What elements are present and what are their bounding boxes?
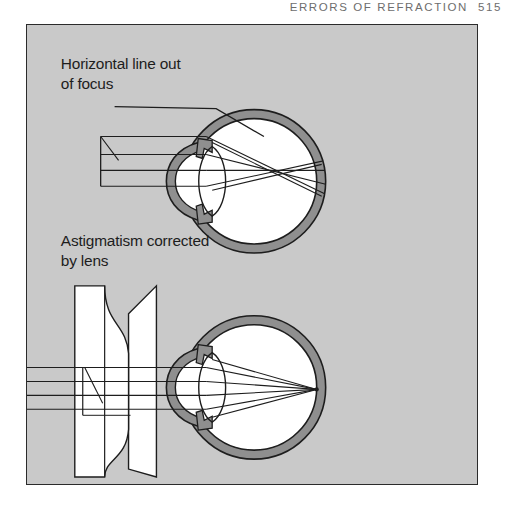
figure-panel: Horizontal line out of focus: [26, 24, 478, 485]
label-corrected-line1: Astigmatism corrected: [61, 232, 209, 249]
label-corrected-line2: by lens: [61, 252, 109, 269]
eye-diagram-corrected: Astigmatism corrected by lens: [27, 232, 326, 477]
focal-point-bottom: [315, 387, 319, 391]
object-line-top: [101, 137, 119, 187]
label-uncorrected-line2: of focus: [61, 75, 114, 92]
running-head-page-number: 515: [478, 1, 502, 13]
running-head: ERRORS OF REFRACTION 515: [290, 0, 502, 14]
eye-diagram-uncorrected: Horizontal line out of focus: [61, 55, 326, 253]
label-uncorrected-line1: Horizontal line out: [61, 55, 182, 72]
figure-illustration: Horizontal line out of focus: [27, 25, 477, 484]
running-head-title: ERRORS OF REFRACTION: [290, 1, 468, 13]
